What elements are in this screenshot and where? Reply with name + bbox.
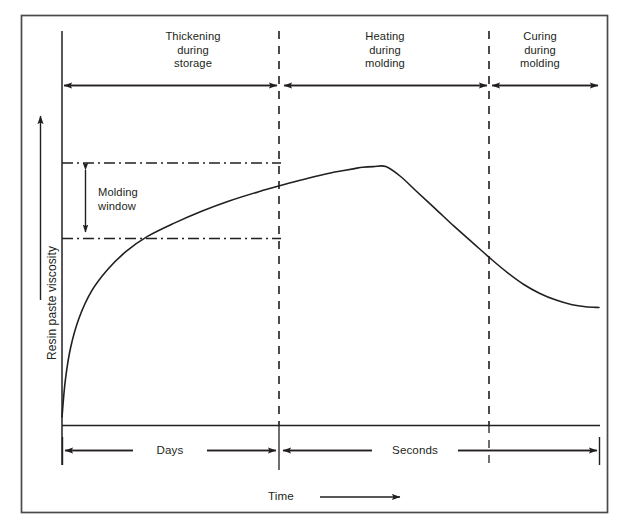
viscosity-time-chart [0, 0, 626, 530]
phase-label-thickening-line2: during [133, 44, 253, 58]
figure-container: Thickening during storage Heating during… [0, 0, 626, 530]
phase-label-curing: Curing during molding [485, 30, 595, 71]
x-axis-label: Time [268, 489, 294, 502]
seconds-text: Seconds [392, 443, 438, 456]
molding-window-label-line1: Molding [98, 186, 138, 200]
time-scale-label-seconds: Seconds [372, 443, 458, 456]
phase-label-thickening-line1: Thickening [133, 30, 253, 44]
phase-label-heating: Heating during molding [325, 30, 445, 71]
x-axis-label-text: Time [268, 489, 294, 502]
molding-window-label: Molding window [98, 186, 138, 213]
figure-border [22, 16, 608, 513]
y-axis-label-text: Resin paste viscosity [45, 246, 59, 360]
phase-label-thickening: Thickening during storage [133, 30, 253, 71]
time-scale-label-days: Days [133, 443, 207, 456]
viscosity-curve [62, 166, 599, 417]
phase-label-heating-line1: Heating [325, 30, 445, 44]
phase-label-heating-line2: during [325, 44, 445, 58]
days-text: Days [157, 443, 184, 456]
phase-label-curing-line2: during [485, 44, 595, 58]
phase-label-curing-line3: molding [485, 57, 595, 71]
molding-window-label-line2: window [98, 200, 138, 214]
phase-label-heating-line3: molding [325, 57, 445, 71]
phase-label-thickening-line3: storage [133, 57, 253, 71]
phase-label-curing-line1: Curing [485, 30, 595, 44]
y-axis-label: Resin paste viscosity [45, 246, 59, 360]
